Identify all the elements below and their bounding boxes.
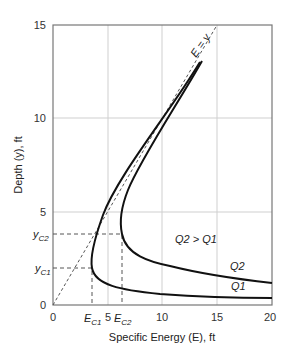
y-tick-10: 10 (34, 112, 46, 124)
e-equals-y-label: E = y (188, 30, 213, 59)
ec2-label: EC2 (114, 312, 132, 327)
ec1-label: EC1 (84, 312, 102, 327)
x-axis-label: Specific Energy (E), ft (109, 331, 215, 343)
y-tick-0: 0 (40, 299, 46, 311)
q-relation-label: Q2 > Q1 (175, 233, 217, 245)
y-tick-5: 5 (40, 206, 46, 218)
yc1-label: yC1 (34, 262, 51, 277)
x-tick-5: 5 (105, 311, 111, 323)
x-tick-20: 20 (264, 311, 276, 323)
yc2-label: yC2 (32, 228, 49, 243)
specific-energy-chart: 0 5 10 15 yC2 yC1 0 5 10 15 20 EC1 EC2 S… (0, 0, 291, 361)
x-tick-10: 10 (156, 311, 168, 323)
x-tick-0: 0 (50, 311, 56, 323)
x-tick-15: 15 (211, 311, 223, 323)
q2-curve (121, 61, 272, 283)
e-equals-y-line (53, 25, 217, 305)
q1-label: Q1 (231, 280, 246, 292)
q2-label: Q2 (230, 260, 245, 272)
q1-curve (91, 62, 272, 298)
y-tick-15: 15 (34, 19, 46, 31)
y-axis-label: Depth (y), ft (12, 136, 24, 193)
critical-guides (53, 234, 122, 305)
